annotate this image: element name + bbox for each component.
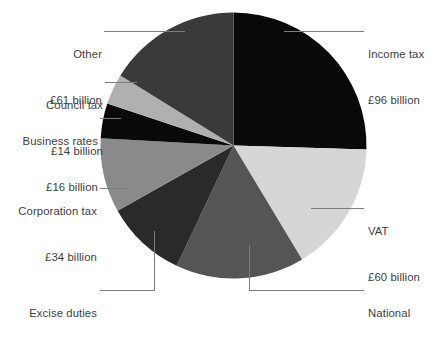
label-corporation-tax-title: Corporation tax <box>0 204 97 219</box>
label-national-insurance: National Insurance £59 billion <box>368 276 439 339</box>
label-income-tax: Income tax £96 billion <box>368 17 439 139</box>
label-vat-title: VAT <box>368 224 439 239</box>
leader-line-corporation-tax <box>100 188 129 189</box>
label-corporation-tax-value: £34 billion <box>0 250 97 265</box>
leader-line-excise-duties-v <box>154 231 155 291</box>
label-income-tax-title: Income tax <box>368 47 439 62</box>
leader-line-excise-duties <box>100 290 155 291</box>
pie-chart-figure: Other £61 billion Council tax £14 billio… <box>0 0 439 339</box>
label-business-rates-title: Business rates <box>0 134 98 149</box>
leader-line-vat <box>311 208 364 209</box>
label-other-title: Other <box>4 47 102 62</box>
label-excise-duties-title: Excise duties <box>0 306 97 321</box>
leader-line-council-tax <box>105 82 137 83</box>
label-income-tax-value: £96 billion <box>368 93 439 108</box>
leader-line-other <box>104 31 185 32</box>
pie-slice-group <box>101 13 367 279</box>
leader-line-national-insurance-v <box>249 245 250 291</box>
label-excise-duties: Excise duties £37 billion <box>0 276 97 339</box>
label-national-insurance-title: National <box>368 306 439 321</box>
leader-line-national-insurance <box>249 290 364 291</box>
leader-line-income-tax <box>284 31 364 32</box>
pie-slice-income-tax[interactable] <box>234 13 367 150</box>
leader-line-business-rates <box>100 118 121 119</box>
